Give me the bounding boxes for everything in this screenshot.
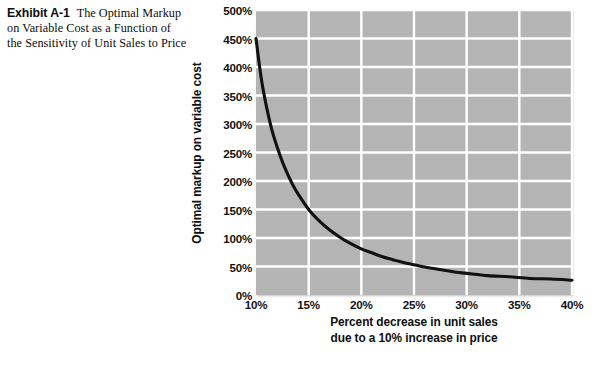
x-tick-label: 25% — [387, 298, 441, 311]
x-tick-label: 35% — [492, 298, 546, 311]
y-tick-label: 500% — [198, 4, 252, 17]
y-tick-label: 200% — [198, 175, 252, 188]
y-tick-label: 150% — [198, 203, 252, 216]
y-tick-label: 100% — [198, 232, 252, 245]
x-tick-label: 40% — [545, 298, 599, 311]
y-axis-title-text: Optimal markup on variable cost — [190, 62, 204, 243]
y-axis-title: Optimal markup on variable cost — [188, 10, 206, 295]
series-line — [256, 39, 572, 281]
y-tick-label: 350% — [198, 89, 252, 102]
x-tick-label: 15% — [282, 298, 336, 311]
plot-area — [256, 10, 572, 295]
y-tick-label: 400% — [198, 61, 252, 74]
data-curve — [256, 10, 572, 295]
x-axis-ticks: 10%15%20%25%30%35%40% — [256, 298, 572, 316]
x-axis-title-line2: due to a 10% increase in price — [256, 331, 572, 347]
chart: 0%50%100%150%200%250%300%350%400%450%500… — [0, 0, 613, 366]
x-tick-label: 30% — [440, 298, 494, 311]
y-tick-label: 450% — [198, 32, 252, 45]
exhibit-page: Exhibit A-1The Optimal Markup on Variabl… — [0, 0, 613, 366]
y-tick-label: 50% — [198, 260, 252, 273]
y-tick-label: 250% — [198, 146, 252, 159]
x-axis-title: Percent decrease in unit sales due to a … — [256, 315, 572, 346]
y-tick-label: 300% — [198, 118, 252, 131]
x-tick-label: 20% — [334, 298, 388, 311]
x-axis-title-line1: Percent decrease in unit sales — [256, 315, 572, 331]
x-tick-label: 10% — [229, 298, 283, 311]
